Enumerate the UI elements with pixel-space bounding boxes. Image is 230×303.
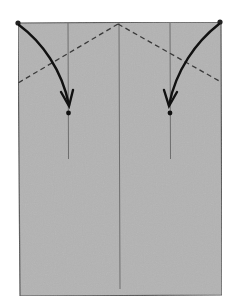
origami-diagram	[0, 0, 230, 303]
right-crease-line	[170, 23, 171, 159]
left-crease-line	[68, 23, 69, 159]
left-target-dot	[66, 111, 71, 116]
right-target-dot	[168, 111, 173, 116]
